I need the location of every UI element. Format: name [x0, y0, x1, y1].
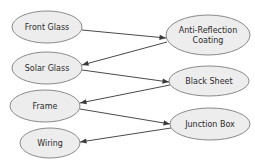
edge-coating-to-solar-glass	[82, 42, 167, 66]
edge-line	[82, 70, 169, 82]
node-front-glass[interactable]: Front Glass	[12, 11, 82, 43]
diagram-svg: Front GlassSolar GlassFrameWiringAnti-Re…	[0, 0, 255, 163]
node-label: Anti-Reflection	[179, 26, 238, 35]
edge-front-glass-to-coating	[82, 30, 166, 40]
node-label: Wiring	[37, 139, 63, 148]
edge-line	[80, 85, 170, 103]
arrow-head-icon	[80, 138, 87, 143]
edges-layer	[80, 30, 171, 144]
node-label: Front Glass	[25, 23, 69, 32]
node-anti-reflection-coating[interactable]: Anti-ReflectionCoating	[166, 15, 250, 55]
node-solar-glass[interactable]: Solar Glass	[12, 52, 82, 84]
arrow-head-icon	[159, 35, 166, 40]
edge-frame-to-junction-box	[80, 109, 170, 125]
node-label: Solar Glass	[25, 64, 70, 73]
edge-line	[82, 42, 167, 65]
edge-black-sheet-to-frame	[80, 85, 170, 104]
node-label: Junction Box	[184, 120, 235, 129]
node-label: Coating	[193, 36, 224, 45]
node-label: Black Sheet	[185, 77, 232, 86]
edge-line	[80, 109, 170, 124]
arrow-head-icon	[80, 99, 87, 104]
nodes-layer: Front GlassSolar GlassFrameWiringAnti-Re…	[10, 11, 250, 158]
edge-line	[80, 128, 171, 142]
node-frame[interactable]: Frame	[10, 90, 80, 122]
arrow-head-icon	[82, 61, 89, 66]
arrow-head-icon	[162, 79, 169, 84]
node-label: Frame	[33, 102, 58, 111]
node-junction-box[interactable]: Junction Box	[170, 108, 250, 140]
diagram-canvas: Front GlassSolar GlassFrameWiringAnti-Re…	[0, 0, 255, 163]
node-wiring[interactable]: Wiring	[20, 128, 80, 158]
edge-junction-box-to-wiring	[80, 128, 171, 144]
arrow-head-icon	[163, 120, 170, 125]
node-black-sheet[interactable]: Black Sheet	[169, 66, 249, 96]
edge-solar-glass-to-black-sheet	[82, 70, 169, 84]
edge-line	[82, 30, 166, 38]
